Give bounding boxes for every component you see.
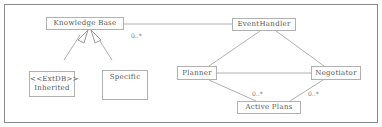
multiplicity-label: 0..* — [131, 32, 142, 39]
class-name: Active Plans — [238, 102, 300, 113]
multiplicity-label: 0..* — [308, 90, 319, 97]
class-name: Inherited — [30, 84, 74, 93]
class-name: Planner — [178, 67, 216, 79]
class-negotiator[interactable]: Negotiator — [311, 66, 361, 80]
class-stereotype: <<ExtDB>> — [30, 75, 74, 84]
class-event-handler[interactable]: EventHandler — [232, 18, 296, 31]
class-name: Specific — [103, 73, 147, 82]
class-name: Negotiator — [312, 67, 360, 79]
class-inherited[interactable]: <<ExtDB>> Inherited — [29, 71, 75, 97]
class-name: EventHandler — [233, 19, 295, 30]
class-active-plans[interactable]: Active Plans — [237, 101, 301, 114]
class-knowledge-base[interactable]: Knowledge Base — [46, 17, 124, 30]
class-planner[interactable]: Planner — [177, 66, 217, 80]
class-specific[interactable]: Specific — [102, 70, 148, 100]
multiplicity-label: 0..* — [252, 90, 263, 97]
class-name: Knowledge Base — [47, 18, 123, 29]
